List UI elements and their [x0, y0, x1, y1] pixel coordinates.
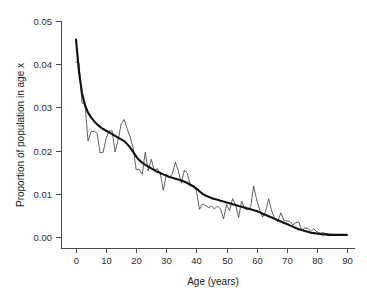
y-tick-label: 0.00 — [34, 232, 53, 243]
x-axis-title: Age (years) — [187, 276, 239, 287]
y-tick-label: 0.02 — [34, 146, 53, 157]
chart-figure: 01020304050607080900.000.010.020.030.040… — [0, 0, 367, 297]
x-tick-label: 70 — [282, 255, 293, 266]
y-tick-label: 0.03 — [34, 102, 53, 113]
x-tick-label: 90 — [342, 255, 353, 266]
x-tick-label: 50 — [222, 255, 233, 266]
x-tick-label: 0 — [74, 255, 79, 266]
y-tick-label: 0.04 — [34, 59, 53, 70]
tick-labels: 01020304050607080900.000.010.020.030.040… — [34, 16, 353, 266]
x-tick-label: 80 — [312, 255, 323, 266]
tick-marks — [56, 22, 348, 254]
x-tick-label: 60 — [252, 255, 263, 266]
population-age-distribution-chart: 01020304050607080900.000.010.020.030.040… — [0, 0, 367, 297]
x-tick-label: 40 — [191, 255, 202, 266]
data-series — [76, 40, 347, 236]
axes — [61, 21, 355, 248]
series-smoothed-fit — [76, 40, 347, 235]
y-axis-title: Proportion of population in age x — [15, 63, 26, 207]
x-tick-label: 30 — [161, 255, 172, 266]
y-tick-label: 0.05 — [34, 16, 53, 27]
y-tick-label: 0.01 — [34, 189, 53, 200]
x-tick-label: 20 — [131, 255, 142, 266]
x-tick-label: 10 — [101, 255, 112, 266]
series-observed-proportion — [76, 62, 347, 235]
